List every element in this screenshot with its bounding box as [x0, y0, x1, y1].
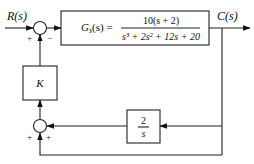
- integrator-denominator: s: [142, 128, 146, 139]
- output-label: C(s): [217, 9, 238, 23]
- forward-block-lhs: Gs(s) =: [81, 21, 113, 35]
- block-diagram: R(s) + − Gs(s) = 10(s + 2) s³ + 2s² + 12…: [0, 0, 254, 164]
- top-junction-minus-sign: −: [47, 33, 52, 43]
- input-label: R(s): [6, 9, 27, 23]
- forward-block-denominator: s³ + 2s² + 12s + 20: [122, 31, 200, 42]
- forward-block-numerator: 10(s + 2): [143, 15, 179, 27]
- integrator-numerator: 2: [141, 115, 146, 126]
- summing-junction-top: [34, 22, 47, 35]
- bottom-junction-right-plus-sign: +: [46, 132, 51, 142]
- top-junction-plus-sign: +: [27, 33, 32, 43]
- bottom-junction-left-plus-sign: +: [27, 132, 32, 142]
- summing-junction-bottom: [34, 120, 47, 133]
- gain-label: K: [35, 77, 44, 89]
